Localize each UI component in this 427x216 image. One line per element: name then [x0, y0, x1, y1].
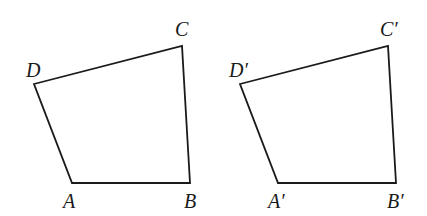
vertex-label-b-prime: B′ [387, 190, 404, 212]
vertex-label-d: D [25, 59, 41, 81]
vertex-label-a-prime: A′ [266, 190, 285, 212]
quadrilateral-a-prime-b-prime-c-prime-d-prime: A′ B′ C′ D′ [228, 18, 404, 212]
diagram-svg: A B C D A′ B′ C′ D′ [0, 0, 427, 216]
quadrilateral-abcd: A B C D [25, 18, 196, 212]
quadrilateral-abcd-outline [34, 46, 190, 183]
vertex-label-d-prime: D′ [228, 59, 248, 81]
vertex-label-b: B [184, 190, 196, 212]
vertex-label-c-prime: C′ [380, 18, 398, 40]
vertex-label-c: C [175, 18, 189, 40]
vertex-label-a: A [61, 190, 76, 212]
quadrilateral-prime-outline [240, 46, 396, 183]
diagram-canvas: A B C D A′ B′ C′ D′ [0, 0, 427, 216]
